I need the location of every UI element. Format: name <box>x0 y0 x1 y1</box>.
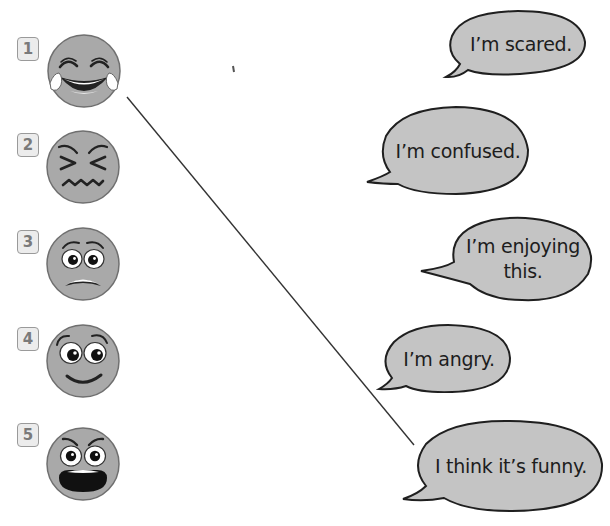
angry-face-icon[interactable] <box>45 426 121 502</box>
scared-face-icon[interactable] <box>45 226 121 302</box>
speech-bubble-enjoying[interactable]: I’m enjoying this. <box>418 214 596 304</box>
laughing-face-icon[interactable] <box>46 33 122 109</box>
speech-bubble-confused[interactable]: I’m confused. <box>364 104 532 198</box>
bubble-text-line1: I’m enjoying <box>466 234 580 259</box>
bubble-text: I’m scared. <box>440 8 590 80</box>
bubble-text: I’m angry. <box>376 322 514 396</box>
happy-face-icon[interactable] <box>45 323 121 399</box>
face-number-4: 4 <box>17 327 39 351</box>
emotion-matching-worksheet: 1 2 3 4 <box>0 0 610 526</box>
face-number-3: 3 <box>17 230 39 254</box>
face-number-1: 1 <box>17 37 39 61</box>
face-number-2: 2 <box>17 133 39 157</box>
speech-bubble-scared[interactable]: I’m scared. <box>440 8 590 80</box>
confused-face-icon[interactable] <box>45 129 121 205</box>
bubble-text-line2: this. <box>503 259 542 284</box>
bubble-text: I think it’s funny. <box>400 418 606 514</box>
speech-bubble-funny[interactable]: I think it’s funny. <box>400 418 606 514</box>
speech-bubble-angry[interactable]: I’m angry. <box>376 322 514 396</box>
bubble-text: I’m confused. <box>364 104 532 198</box>
bubble-text-multiline: I’m enjoying this. <box>418 214 596 304</box>
face-number-5: 5 <box>17 423 39 447</box>
